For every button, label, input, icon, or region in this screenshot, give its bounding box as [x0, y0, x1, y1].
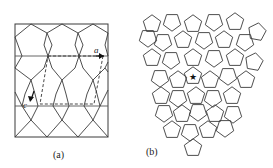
bottom-zigzag [15, 120, 108, 137]
pentagon-tile [151, 71, 168, 88]
pentagon-tile [201, 71, 218, 88]
panel-a-tiling: a c [15, 24, 108, 137]
pentagon-tile [187, 87, 204, 104]
pentagon-tile [236, 35, 253, 52]
edge [100, 90, 108, 106]
pentagon-tile [223, 87, 240, 104]
pentagon-tile [226, 49, 243, 66]
middle-zigzag [83, 62, 108, 80]
vector-a-label: a [94, 45, 99, 55]
vector-a-arrowhead [99, 53, 104, 59]
pentagon-tile [163, 15, 180, 32]
edge [15, 56, 22, 68]
pentagon-tile [174, 31, 191, 48]
pentagon-tile [226, 13, 243, 30]
panel-b-pentagon-tiling [139, 13, 266, 156]
pentagon-tile [189, 105, 206, 122]
pentagon-tile [205, 15, 222, 32]
pentagon-tile [181, 125, 198, 142]
pentagon-tile [199, 121, 216, 138]
pentagon-tile [155, 106, 172, 123]
pentagon-tile [246, 53, 263, 70]
pentagon-tile [143, 49, 160, 66]
vector-c-label: c [23, 100, 27, 110]
middle-zigzag [15, 68, 44, 80]
pentagon-tile [205, 51, 222, 68]
pentagon-tile [184, 139, 201, 156]
pentagon-tile [195, 33, 212, 50]
pentagon-tile [163, 121, 180, 138]
pentagon-tile [184, 15, 201, 32]
pentagon-tile [154, 35, 171, 52]
edge [75, 33, 79, 68]
pentagon-tile [215, 31, 232, 48]
pentagon-tile [184, 49, 201, 66]
pentagon-tile [237, 71, 254, 88]
edge [78, 33, 83, 68]
edge [15, 37, 22, 56]
pentagon-tile [173, 105, 190, 122]
middle-zigzag [52, 68, 75, 80]
panel-b-caption: (b) [146, 146, 158, 158]
center-star-marker: ★ [189, 72, 197, 82]
pentagon-tile [206, 105, 223, 122]
pentagon-tile [219, 69, 236, 86]
figure-canvas: a c (a) ★ (b) [0, 0, 273, 168]
top-zigzag [15, 24, 108, 37]
pentagon-tile [216, 121, 233, 138]
pentagon-tile [169, 91, 186, 108]
pentagon-tile [162, 53, 179, 70]
edge [15, 92, 22, 106]
pentagon-tile [152, 87, 169, 104]
edge [44, 33, 48, 68]
pentagon-tile [204, 91, 221, 108]
vector-c-arrowhead [28, 96, 34, 102]
panel-a-caption: (a) [53, 149, 64, 161]
pentagon-tile [143, 15, 160, 32]
edge [47, 33, 52, 68]
diamond [53, 80, 69, 120]
